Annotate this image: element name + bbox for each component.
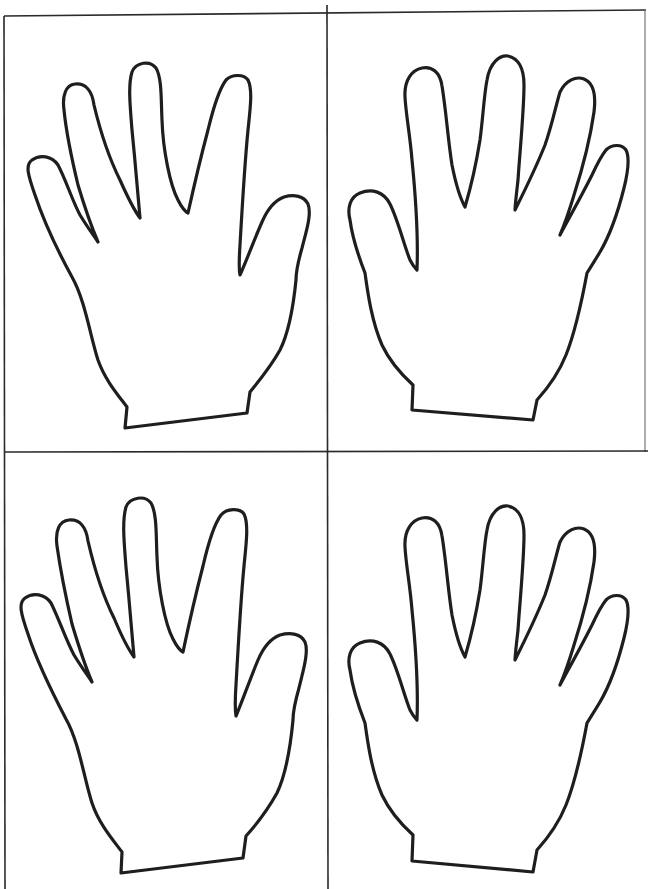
horizontal-divider xyxy=(4,451,648,452)
hand-outline-worksheet xyxy=(0,0,648,889)
hand-outline-bottom-left xyxy=(21,498,306,873)
top-border xyxy=(4,10,646,16)
hand-outline-top-left xyxy=(28,63,309,428)
vertical-divider xyxy=(327,5,328,889)
hand-outline-top-right xyxy=(349,56,628,420)
hand-outline-bottom-right xyxy=(349,506,628,872)
